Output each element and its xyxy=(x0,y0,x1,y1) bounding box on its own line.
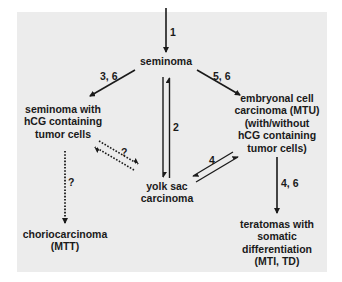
node-choriocarcinoma: choriocarcinoma (MTT) xyxy=(15,228,115,253)
label-5-6: 5, 6 xyxy=(213,70,231,82)
node-yolk-sac-carcinoma: yolk sac carcinoma xyxy=(127,180,207,205)
label-2: 2 xyxy=(173,121,179,133)
label-3-6: 3, 6 xyxy=(100,70,118,82)
label-q-diagonal: ? xyxy=(121,146,127,158)
node-embryonal-cell-carcinoma: embryonal cell carcinoma (MTU) (with/wit… xyxy=(227,92,327,154)
arrow-q-from-yolk xyxy=(95,147,134,170)
label-4: 4 xyxy=(209,154,215,166)
arrow-q-to-yolk xyxy=(99,141,138,164)
node-seminoma-hcg: seminoma with hCG containing tumor cells xyxy=(13,103,113,140)
label-q-vertical: ? xyxy=(68,176,74,188)
node-seminoma: seminoma xyxy=(126,55,206,67)
node-teratomas: teratomas with somatic differentiation (… xyxy=(227,218,327,268)
arrow-4-from-yolk xyxy=(196,157,238,182)
label-4-6: 4, 6 xyxy=(281,177,299,189)
label-1: 1 xyxy=(170,26,176,38)
